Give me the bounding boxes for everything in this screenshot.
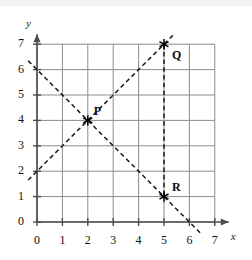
x-tick-label: 7 xyxy=(207,233,223,248)
coordinate-plane-figure: y x 0123456701234567PQR xyxy=(0,0,252,260)
x-tick-label: 6 xyxy=(181,233,197,248)
x-tick-label: 1 xyxy=(54,233,70,248)
x-tick-label: 3 xyxy=(105,233,121,248)
y-axis-label: y xyxy=(26,17,31,29)
y-axis-arrowhead xyxy=(33,34,40,42)
x-axis-arrowhead xyxy=(221,218,229,225)
marker-center xyxy=(86,119,89,122)
marker-center xyxy=(162,195,165,198)
x-tick-label: 0 xyxy=(29,233,45,248)
y-tick-label: 0 xyxy=(13,214,29,229)
point-label-R: R xyxy=(172,180,181,195)
y-tick-label: 7 xyxy=(13,36,29,51)
x-tick-label: 5 xyxy=(156,233,172,248)
y-tick-label: 1 xyxy=(13,189,29,204)
y-tick-label: 3 xyxy=(13,138,29,153)
y-tick-label: 5 xyxy=(13,87,29,102)
point-label-Q: Q xyxy=(172,48,181,63)
point-label-P: P xyxy=(94,104,101,119)
series-line-descending-line xyxy=(28,61,201,234)
y-tick-label: 4 xyxy=(13,112,29,127)
plot-canvas xyxy=(0,0,252,260)
x-axis-label: x xyxy=(231,230,236,242)
x-tick-label: 2 xyxy=(80,233,96,248)
marker-center xyxy=(162,43,165,46)
x-tick-label: 4 xyxy=(131,233,147,248)
y-tick-label: 6 xyxy=(13,62,29,77)
y-tick-label: 2 xyxy=(13,163,29,178)
